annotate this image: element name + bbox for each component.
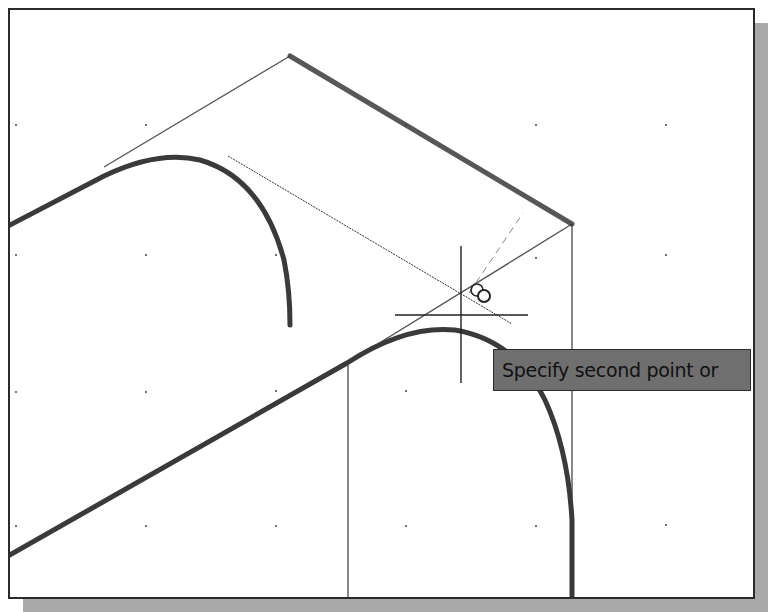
rubberband-line — [228, 156, 512, 324]
drawing-canvas[interactable] — [8, 8, 755, 599]
thick-curves — [8, 157, 572, 597]
drawing-viewport[interactable]: Specify second point or — [8, 8, 755, 599]
top-left-edge — [104, 56, 290, 167]
top-ridge-edge — [290, 56, 572, 224]
tangent-snap-icon — [471, 284, 490, 302]
thin-lines — [104, 56, 572, 597]
tooltip-text: Specify second point or — [502, 359, 718, 381]
tracking-dashed-line — [469, 213, 523, 293]
command-prompt-tooltip: Specify second point or — [493, 349, 751, 391]
upper-left-arc — [8, 157, 290, 325]
lower-arc-profile — [8, 329, 572, 597]
grid-dots — [15, 124, 667, 527]
